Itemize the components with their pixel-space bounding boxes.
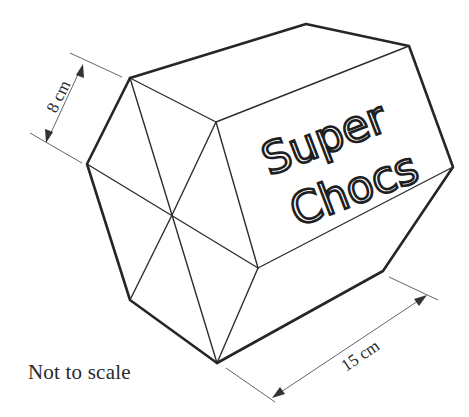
- front-hexagon-face: [87, 78, 258, 363]
- dimension-label-8cm: 8 cm: [43, 77, 75, 115]
- extension-line-left: [226, 368, 275, 402]
- extension-line-right: [389, 277, 438, 300]
- spoke-lower-left: [130, 215, 172, 300]
- spoke-bottom: [172, 215, 217, 363]
- arrow-head-right-icon: [414, 295, 427, 306]
- brand-label: Super Chocs: [255, 87, 425, 239]
- front-edge-top-right: [130, 78, 216, 122]
- hexagonal-prism-diagram: Super Chocs 8 cm 15 cm: [0, 0, 469, 417]
- arrow-head-left-icon: [272, 387, 285, 398]
- dimension-arrow-line: [278, 299, 421, 394]
- dimension-label-15cm: 15 cm: [338, 336, 383, 375]
- dimension-hexagon-side: 8 cm: [30, 53, 122, 163]
- extension-line-bottom: [30, 133, 82, 163]
- not-to-scale-note: Not to scale: [28, 360, 131, 385]
- spoke-upper-right: [172, 122, 216, 215]
- front-hexagon-left-outline: [87, 78, 217, 363]
- front-edge-bottom-right: [217, 268, 258, 363]
